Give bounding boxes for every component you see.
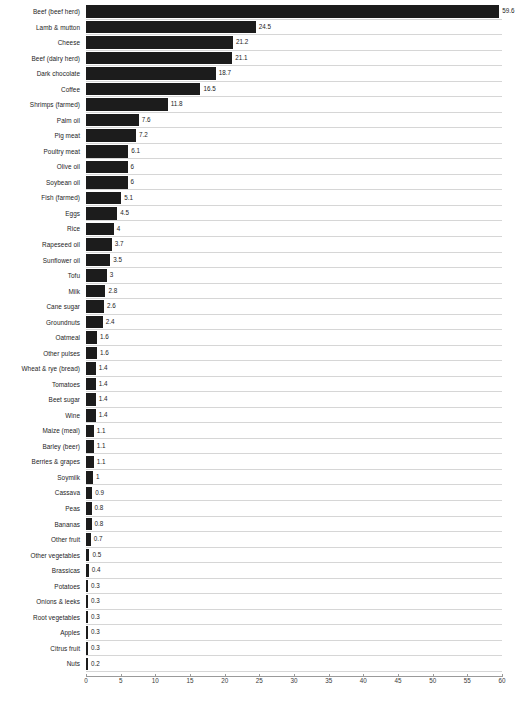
chart-row: Wheat & rye (bread)1.4	[0, 361, 510, 377]
x-tick-label: 25	[244, 677, 274, 684]
bar-value-label: 21.2	[233, 36, 248, 49]
category-label: Palm oil	[0, 113, 80, 129]
bar-track: 0.8	[86, 518, 502, 531]
category-label: Pig meat	[0, 128, 80, 144]
category-label: Groundnuts	[0, 315, 80, 331]
category-label: Lamb & mutton	[0, 20, 80, 36]
category-label: Maize (meal)	[0, 423, 80, 439]
x-tick-label: 50	[418, 677, 448, 684]
bar-track: 7.2	[86, 129, 502, 142]
bar-value-label: 6	[128, 176, 135, 189]
chart-row: Olive oil6	[0, 159, 510, 175]
x-tick-label: 15	[175, 677, 205, 684]
bar-value-label: 7.6	[139, 114, 151, 127]
bar-value-label: 16.5	[200, 83, 215, 96]
bar-track: 6.1	[86, 145, 502, 158]
bar-value-label: 1.4	[96, 378, 108, 391]
x-tick-label: 30	[279, 677, 309, 684]
bar-value-label: 0.7	[91, 533, 103, 546]
chart-row: Tomatoes1.4	[0, 377, 510, 393]
bar	[86, 347, 97, 360]
chart-row: Dark chocolate18.7	[0, 66, 510, 82]
chart-row: Fish (farmed)5.1	[0, 190, 510, 206]
category-label: Citrus fruit	[0, 641, 80, 657]
bar-track: 1.4	[86, 393, 502, 406]
category-label: Coffee	[0, 82, 80, 98]
bar	[86, 285, 105, 298]
bar-value-label: 1.4	[96, 362, 108, 375]
category-label: Olive oil	[0, 159, 80, 175]
bar-track: 0.5	[86, 549, 502, 562]
bar-track: 1.4	[86, 378, 502, 391]
chart-row: Other pulses1.6	[0, 346, 510, 362]
bar-track: 21.1	[86, 52, 502, 65]
bar-track: 0.3	[86, 626, 502, 639]
bar	[86, 223, 114, 236]
bar	[86, 21, 256, 34]
chart-row: Wine1.4	[0, 408, 510, 424]
bar-value-label: 0.3	[88, 580, 100, 593]
bar	[86, 145, 128, 158]
bar	[86, 425, 94, 438]
chart-row: Beet sugar1.4	[0, 392, 510, 408]
bar	[86, 67, 216, 80]
chart-row: Rice4	[0, 221, 510, 237]
bar	[86, 456, 94, 469]
chart-row: Palm oil7.6	[0, 113, 510, 129]
bar-value-label: 3.5	[110, 254, 122, 267]
bar-track: 18.7	[86, 67, 502, 80]
chart-row: Cane sugar2.6	[0, 299, 510, 315]
chart-row: Cassava0.9	[0, 485, 510, 501]
category-label: Nuts	[0, 656, 80, 672]
category-label: Root vegetables	[0, 610, 80, 626]
bar-track: 2.8	[86, 285, 502, 298]
gridline	[86, 671, 502, 672]
bar-value-label: 0.5	[89, 549, 101, 562]
bar	[86, 161, 128, 174]
bar	[86, 5, 499, 18]
chart-row: Berries & grapes1.1	[0, 454, 510, 470]
bar	[86, 331, 97, 344]
bar	[86, 207, 117, 220]
chart-row: Apples0.3	[0, 625, 510, 641]
chart-row: Eggs4.5	[0, 206, 510, 222]
bar-value-label: 2.6	[104, 300, 116, 313]
bar-track: 59.6	[86, 5, 502, 18]
bar-track: 11.8	[86, 98, 502, 111]
bar-track: 1.1	[86, 425, 502, 438]
bar-track: 21.2	[86, 36, 502, 49]
x-tick-label: 45	[383, 677, 413, 684]
bar	[86, 471, 93, 484]
category-label: Wine	[0, 408, 80, 424]
bar-track: 2.6	[86, 300, 502, 313]
chart-row: Sunflower oil3.5	[0, 253, 510, 269]
bar-track: 3.7	[86, 238, 502, 251]
bar	[86, 129, 136, 142]
category-label: Rice	[0, 221, 80, 237]
bar-track: 0.3	[86, 642, 502, 655]
bar-track: 0.9	[86, 487, 502, 500]
chart-row: Beef (dairy herd)21.1	[0, 51, 510, 67]
bar	[86, 362, 96, 375]
bar-value-label: 1.1	[94, 440, 106, 453]
category-label: Other fruit	[0, 532, 80, 548]
category-label: Eggs	[0, 206, 80, 222]
category-label: Wheat & rye (bread)	[0, 361, 80, 377]
x-tick-label: 40	[348, 677, 378, 684]
bar-value-label: 0.3	[88, 642, 100, 655]
category-label: Potatoes	[0, 579, 80, 595]
category-label: Fish (farmed)	[0, 190, 80, 206]
chart-row: Bananas0.8	[0, 517, 510, 533]
category-label: Peas	[0, 501, 80, 517]
chart-row: Soymilk1	[0, 470, 510, 486]
category-label: Other pulses	[0, 346, 80, 362]
bar-value-label: 6	[128, 161, 135, 174]
bar-value-label: 6.1	[128, 145, 140, 158]
bar-track: 1.6	[86, 347, 502, 360]
bar	[86, 254, 110, 267]
x-axis-ticks: 051015202530354045505560	[0, 677, 510, 697]
category-label: Apples	[0, 625, 80, 641]
chart-row: Other fruit0.7	[0, 532, 510, 548]
bar-value-label: 7.2	[136, 129, 148, 142]
bar-track: 5.1	[86, 192, 502, 205]
